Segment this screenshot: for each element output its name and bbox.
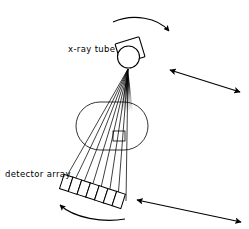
upper-translation-arrow-line	[170, 70, 240, 92]
fan-ray	[73, 69, 128, 184]
fan-ray	[91, 69, 128, 190]
detector-array-label: detector array	[5, 170, 71, 179]
detector-array	[60, 174, 126, 208]
lower-translation-arrow-line	[137, 200, 241, 222]
bottom-rotation-arrow-path	[60, 205, 125, 220]
top-rotation-arrow	[113, 17, 169, 31]
xray-tube	[115, 37, 145, 68]
bottom-rotation-arrow	[60, 205, 125, 220]
ct-fanbeam-diagram: x-ray tube detector array	[0, 0, 249, 229]
lower-translation-arrow	[137, 200, 241, 222]
xray-tube-circle	[118, 46, 140, 68]
fan-ray	[64, 69, 128, 181]
upper-translation-arrow	[170, 70, 240, 92]
top-rotation-arrow-path	[113, 17, 169, 31]
xray-tube-label: x-ray tube	[68, 45, 115, 54]
diagram-svg	[0, 0, 249, 229]
